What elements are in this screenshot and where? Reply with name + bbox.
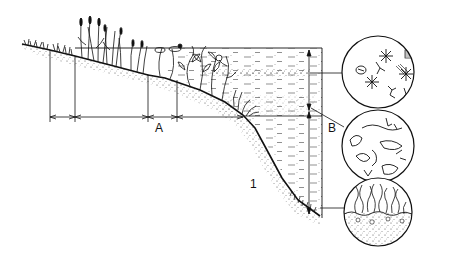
star-alga-icon — [365, 75, 379, 89]
star-alga-icon — [379, 49, 393, 63]
zone-b-label: B — [328, 122, 336, 134]
inset-invertebrates — [342, 110, 414, 182]
inset-plankton — [342, 36, 414, 108]
zone-1-label: 1 — [250, 178, 257, 190]
inset-benthos — [340, 178, 420, 252]
lake-zonation-diagram — [0, 0, 452, 259]
dimension-line-a — [50, 115, 243, 119]
zone-a-label: A — [155, 122, 163, 134]
star-alga-icon — [399, 67, 413, 81]
